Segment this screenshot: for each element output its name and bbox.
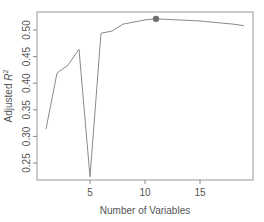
y-tick-label: 0.30 bbox=[21, 126, 32, 146]
series-line bbox=[46, 19, 244, 177]
y-tick-label: 0.45 bbox=[21, 46, 32, 66]
x-tick-label: 15 bbox=[194, 187, 206, 198]
x-axis-label: Number of Variables bbox=[100, 205, 190, 216]
y-tick-label: 0.25 bbox=[21, 153, 32, 173]
x-tick-label: 5 bbox=[87, 187, 93, 198]
y-tick-label: 0.50 bbox=[21, 20, 32, 40]
adjusted-r2-chart: 0.250.300.350.400.450.50 51015 Number of… bbox=[0, 0, 264, 222]
y-axis: 0.250.300.350.400.450.50 bbox=[21, 20, 37, 173]
max-point-marker bbox=[153, 16, 159, 22]
x-axis: 51015 bbox=[87, 180, 206, 198]
plot-frame bbox=[37, 12, 253, 180]
x-tick-label: 10 bbox=[139, 187, 151, 198]
y-tick-label: 0.35 bbox=[21, 100, 32, 120]
y-axis-label: Adjusted R2 bbox=[2, 69, 14, 122]
y-tick-label: 0.40 bbox=[21, 73, 32, 93]
